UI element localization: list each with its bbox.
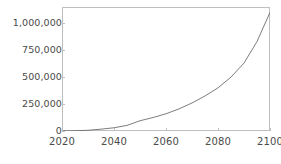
y-tick-mark — [62, 104, 65, 105]
x-tick-label: 2100 — [250, 136, 281, 147]
plot-area — [62, 7, 270, 131]
x-tick-mark — [218, 128, 219, 131]
x-tick-label: 2060 — [146, 136, 186, 147]
y-tick-mark — [62, 23, 65, 24]
y-tick-mark — [62, 77, 65, 78]
x-tick-label: 2020 — [42, 136, 82, 147]
x-tick-mark — [166, 128, 167, 131]
y-tick-label: 1,000,000 — [13, 18, 62, 28]
y-tick-label: 250,000 — [22, 99, 62, 109]
y-tick-mark — [62, 131, 65, 132]
x-tick-label: 2080 — [198, 136, 238, 147]
series-line — [62, 12, 270, 131]
x-tick-mark — [270, 128, 271, 131]
x-tick-mark — [62, 128, 63, 131]
y-tick-label: 500,000 — [22, 72, 62, 82]
x-tick-label: 2040 — [94, 136, 134, 147]
y-tick-mark — [62, 50, 65, 51]
y-tick-label: 750,000 — [22, 45, 62, 55]
x-tick-mark — [114, 128, 115, 131]
exponential-growth-chart: 0250,000500,000750,0001,000,000 20202040… — [0, 0, 281, 164]
